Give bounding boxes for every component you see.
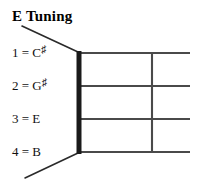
string-label-2-equals: =: [22, 78, 29, 93]
string-label-1-note: C: [32, 45, 41, 60]
string-label-4: 4 = B: [12, 145, 41, 158]
string-label-3-note: E: [32, 111, 40, 126]
string-label-2-note: G: [32, 78, 41, 93]
string-label-4-equals: =: [22, 144, 29, 159]
string-label-4-note: B: [32, 144, 41, 159]
string-label-3: 3 = E: [12, 112, 40, 125]
tuning-diagram-page: E Tuning 1 = C♯ 2 = G♯ 3 = E 4 = B: [0, 0, 197, 189]
page-title: E Tuning: [12, 8, 72, 25]
sharp-icon: ♯: [42, 76, 48, 88]
string-label-3-equals: =: [22, 111, 29, 126]
string-label-2-text: 2: [12, 78, 19, 93]
string-label-1-text: 1: [12, 45, 19, 60]
string-label-4-text: 4: [12, 144, 19, 159]
string-label-2: 2 = G♯: [12, 79, 47, 92]
string-label-3-text: 3: [12, 111, 19, 126]
fretboard-diagram: [0, 0, 197, 189]
string-label-1: 1 = C♯: [12, 46, 47, 59]
sharp-icon: ♯: [41, 43, 47, 55]
string-label-1-equals: =: [22, 45, 29, 60]
